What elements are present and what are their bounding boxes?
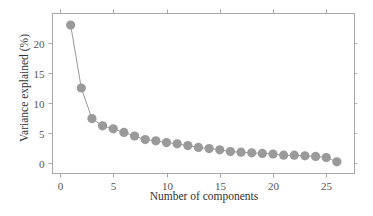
data-point-marker: [226, 147, 235, 156]
data-point-marker: [322, 153, 331, 162]
x-tick-label: 5: [111, 180, 117, 192]
plot-frame: [53, 14, 355, 174]
x-axis-ticks: 0510152025: [58, 10, 333, 193]
data-point-marker: [311, 152, 320, 161]
data-point-marker: [332, 157, 341, 166]
data-point-marker: [77, 83, 86, 92]
data-point-marker: [66, 20, 75, 29]
data-point-marker: [300, 151, 309, 160]
x-tick-label: 25: [321, 180, 333, 192]
y-axis-label: Variance explained (%): [18, 34, 31, 142]
data-point-marker: [247, 148, 256, 157]
data-point-marker: [215, 145, 224, 154]
y-tick-label: 0: [39, 158, 45, 170]
y-tick-label: 10: [34, 98, 46, 110]
data-point-marker: [236, 148, 245, 157]
data-point-marker: [173, 139, 182, 148]
data-point-marker: [194, 143, 203, 152]
data-point-marker: [98, 121, 107, 130]
data-point-marker: [279, 151, 288, 160]
data-point-marker: [290, 151, 299, 160]
series-line: [71, 25, 337, 162]
series-polyline: [71, 25, 337, 162]
data-point-marker: [87, 114, 96, 123]
x-tick-label: 0: [58, 180, 64, 192]
data-point-marker: [258, 149, 267, 158]
data-point-marker: [205, 144, 214, 153]
y-tick-label: 15: [34, 68, 46, 80]
data-point-marker: [183, 141, 192, 150]
scree-plot: 0510152025 05101520 Number of components…: [0, 0, 373, 216]
y-tick-label: 20: [34, 38, 46, 50]
data-point-marker: [141, 135, 150, 144]
data-point-marker: [151, 136, 160, 145]
series-markers: [66, 20, 341, 166]
data-point-marker: [162, 138, 171, 147]
y-tick-label: 5: [39, 128, 45, 140]
x-axis-label: Number of components: [150, 190, 259, 203]
data-point-marker: [109, 124, 118, 133]
x-tick-label: 20: [268, 180, 280, 192]
data-point-marker: [268, 149, 277, 158]
data-point-marker: [130, 131, 139, 140]
data-point-marker: [119, 128, 128, 137]
